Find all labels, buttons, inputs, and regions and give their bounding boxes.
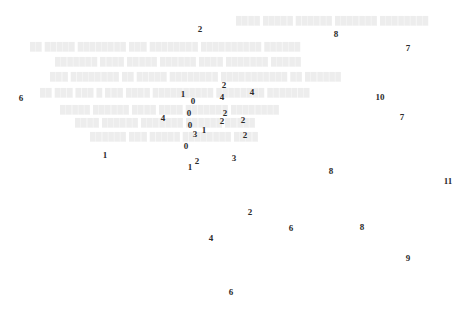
scatter-point-label: 10 bbox=[376, 93, 385, 102]
scatter-point-label: 3 bbox=[232, 154, 237, 163]
scatter-point-label: 7 bbox=[400, 113, 405, 122]
scatter-point-label: 2 bbox=[248, 208, 253, 217]
watermark-text-line: ██████ ███ █████ ████████ ████ bbox=[90, 132, 258, 141]
background-watermark-layer: ████ █████ ██████ ███████ ██████████ ███… bbox=[0, 0, 456, 330]
scatter-point-label: 4 bbox=[209, 234, 214, 243]
watermark-text-line: ██ ███ ███ █ ███ ████ ██████████ ███████… bbox=[40, 88, 310, 97]
scatter-point-label: 2 bbox=[241, 116, 246, 125]
scatter-point-label: 2 bbox=[198, 25, 203, 34]
scatter-point-label: 4 bbox=[161, 114, 166, 123]
scatter-point-label: 2 bbox=[220, 117, 225, 126]
scatter-point-label: 11 bbox=[444, 177, 453, 186]
watermark-text-line: ███████ ████ █████ ██████ ████ ███████ █… bbox=[55, 57, 301, 66]
scatter-point-label: 6 bbox=[229, 288, 234, 297]
scatter-point-label: 2 bbox=[243, 131, 248, 140]
scatter-point-label: 2 bbox=[195, 157, 200, 166]
scatter-point-label: 1 bbox=[103, 151, 108, 160]
watermark-text-line: █████ ██████ ████ ████ ███████ ████████ bbox=[60, 105, 279, 114]
scatter-plot-canvas: ████ █████ ██████ ███████ ██████████ ███… bbox=[0, 0, 456, 330]
scatter-point-label: 0 bbox=[184, 142, 189, 151]
scatter-point-label: 9 bbox=[406, 254, 411, 263]
watermark-text-line: ██ █████ ████████ ███ ████████ █████████… bbox=[30, 42, 301, 51]
watermark-text-line: ███ ████████ ██ █████ ████████ █████████… bbox=[50, 72, 341, 81]
scatter-point-label: 0 bbox=[188, 121, 193, 130]
scatter-point-label: 7 bbox=[406, 44, 411, 53]
scatter-point-label: 4 bbox=[220, 93, 225, 102]
scatter-point-label: 0 bbox=[191, 97, 196, 106]
scatter-point-label: 8 bbox=[360, 223, 365, 232]
watermark-text-line: ████ █████ ██████ ███████ ████████ bbox=[236, 16, 429, 25]
scatter-point-label: 0 bbox=[187, 109, 192, 118]
scatter-point-label: 6 bbox=[289, 224, 294, 233]
scatter-point-label: 1 bbox=[188, 163, 193, 172]
scatter-point-label: 1 bbox=[181, 90, 186, 99]
scatter-point-label: 6 bbox=[19, 94, 24, 103]
scatter-point-label: 3 bbox=[193, 130, 198, 139]
scatter-point-label: 8 bbox=[329, 167, 334, 176]
scatter-point-label: 4 bbox=[250, 88, 255, 97]
scatter-point-label: 1 bbox=[202, 126, 207, 135]
scatter-point-label: 8 bbox=[334, 30, 339, 39]
scatter-point-label: 2 bbox=[222, 81, 227, 90]
